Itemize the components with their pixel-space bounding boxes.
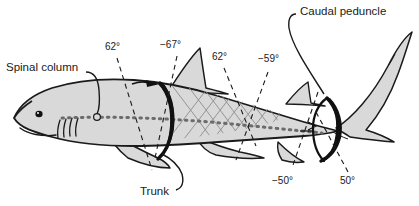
angle-6-line xyxy=(316,112,348,172)
annotation-caudal-peduncle: Caudal peduncle xyxy=(300,6,386,18)
caudal-peduncle-leader xyxy=(289,14,324,94)
caudal-fin xyxy=(336,32,412,142)
angle-label-1: 62° xyxy=(105,42,120,52)
annotation-trunk: Trunk xyxy=(140,186,169,198)
angle-label-2: −67° xyxy=(160,40,181,50)
shark-body xyxy=(14,79,338,146)
angle-label-4: −59° xyxy=(258,54,279,64)
angle-label-3: 62° xyxy=(212,52,227,62)
eye-icon xyxy=(35,111,42,117)
figure-canvas: Spinal column Trunk Caudal peduncle 62° … xyxy=(0,0,419,206)
shark-diagram-svg xyxy=(0,0,419,206)
angle-label-5: −50° xyxy=(272,176,293,186)
annotation-spinal-column: Spinal column xyxy=(6,62,78,74)
eye-highlight xyxy=(37,112,39,114)
angle-label-6: 50° xyxy=(340,176,355,186)
spinal-column-marker xyxy=(94,114,101,121)
